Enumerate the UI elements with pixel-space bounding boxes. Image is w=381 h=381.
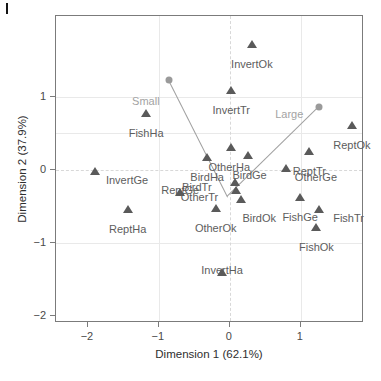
data-point-label: FishGe xyxy=(282,212,317,223)
data-point-label: Large xyxy=(275,109,303,120)
data-point-marker xyxy=(165,77,172,84)
data-point-marker xyxy=(90,167,100,175)
plot-area: InvertOkInvertTrFishHaReptOkOtherHaBirdH… xyxy=(55,15,363,322)
grid-line-vertical xyxy=(159,16,160,321)
data-point-marker xyxy=(226,86,236,94)
data-point-label: FishHa xyxy=(129,128,164,139)
y-tick-mark xyxy=(50,242,55,243)
data-point-marker xyxy=(141,109,151,117)
x-tick-label: −1 xyxy=(152,330,165,342)
data-point-label: OtherGe xyxy=(295,172,337,183)
y-axis-title: Dimension 2 (37.9%) xyxy=(16,115,28,222)
data-point-marker xyxy=(281,164,291,172)
data-point-marker xyxy=(347,121,357,129)
data-point-marker xyxy=(236,195,246,203)
data-point-marker xyxy=(123,205,133,213)
scatter-plot-figure: InvertOkInvertTrFishHaReptOkOtherHaBirdH… xyxy=(0,0,381,381)
data-point-label: InvertGe xyxy=(106,175,148,186)
x-axis-title: Dimension 1 (62.1%) xyxy=(155,348,262,360)
data-point-marker xyxy=(304,147,314,155)
y-tick-label: −1 xyxy=(33,236,46,248)
data-point-marker xyxy=(247,40,257,48)
grid-line-horizontal xyxy=(56,97,362,98)
data-point-marker xyxy=(243,151,253,159)
data-point-label: OtherOk xyxy=(195,223,237,234)
data-point-label: OtherTr xyxy=(181,192,219,203)
data-point-label: InvertOk xyxy=(231,59,273,70)
data-point-marker xyxy=(311,223,321,231)
x-tick-mark xyxy=(300,322,301,327)
data-point-marker xyxy=(226,143,236,151)
data-point-label: FishTr xyxy=(333,213,364,224)
data-point-marker xyxy=(231,186,241,194)
data-point-label: ReptHa xyxy=(109,224,146,235)
x-tick-mark xyxy=(229,322,230,327)
y-tick-mark xyxy=(50,315,55,316)
data-point-label: FishOk xyxy=(299,242,334,253)
y-tick-label: 1 xyxy=(40,90,46,102)
data-point-marker xyxy=(314,205,324,213)
data-point-label: InvertTr xyxy=(213,105,251,116)
data-point-marker xyxy=(316,104,323,111)
data-point-marker xyxy=(211,204,221,212)
data-point-label: BirdOk xyxy=(242,213,276,224)
x-tick-label: 0 xyxy=(226,330,232,342)
data-point-label: InvertHa xyxy=(201,265,243,276)
x-tick-mark xyxy=(87,322,88,327)
y-tick-label: 0 xyxy=(40,163,46,175)
data-point-label: ReptOk xyxy=(333,140,370,151)
y-tick-mark xyxy=(50,169,55,170)
data-point-marker xyxy=(202,153,212,161)
page-edge-artifact xyxy=(6,3,8,14)
grid-line-horizontal xyxy=(56,133,362,134)
data-point-label: Small xyxy=(132,96,160,107)
data-point-marker xyxy=(230,178,240,186)
x-tick-mark xyxy=(158,322,159,327)
y-tick-label: −2 xyxy=(33,309,46,321)
x-tick-label: −2 xyxy=(81,330,94,342)
data-point-marker xyxy=(295,193,305,201)
x-tick-label: 1 xyxy=(297,330,303,342)
y-tick-mark xyxy=(50,96,55,97)
